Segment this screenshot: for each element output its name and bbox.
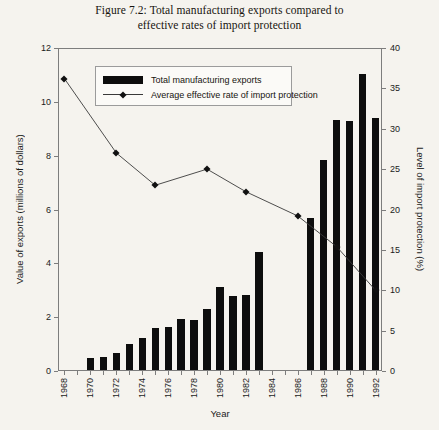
- x-tick-1968: [64, 371, 65, 375]
- y-tick-label-left-0: 0: [46, 367, 51, 376]
- x-tick-1974: [142, 371, 143, 375]
- x-tick-1984: [272, 371, 273, 375]
- legend-item-bar: Total manufacturing exports: [103, 72, 284, 87]
- x-tick-label-1982: 1982: [241, 378, 250, 398]
- y-tick-label-right-25: 25: [390, 165, 400, 174]
- y-tick-right-15: [382, 250, 386, 251]
- x-tick-label-1980: 1980: [216, 378, 225, 398]
- x-tick-1982: [246, 371, 247, 375]
- figure-title: Figure 7.2: Total manufacturing exports …: [0, 3, 439, 33]
- x-tick-1969: [77, 371, 78, 375]
- x-tick-1985: [285, 371, 286, 375]
- y-tick-right-10: [382, 290, 386, 291]
- y-tick-label-right-20: 20: [390, 205, 400, 214]
- x-tick-label-1970: 1970: [86, 378, 95, 398]
- y-tick-right-5: [382, 331, 386, 332]
- y-tick-label-right-15: 15: [390, 245, 400, 254]
- legend-item-line: Average effective rate of import protect…: [103, 87, 284, 102]
- x-tick-1973: [129, 371, 130, 375]
- y-tick-label-right-10: 10: [390, 286, 400, 295]
- x-tick-label-1992: 1992: [371, 378, 380, 398]
- x-tick-1970: [90, 371, 91, 375]
- figure-container: Figure 7.2: Total manufacturing exports …: [0, 0, 439, 430]
- x-tick-1981: [233, 371, 234, 375]
- y-tick-right-30: [382, 129, 386, 130]
- figure-title-line-1: Figure 7.2: Total manufacturing exports …: [0, 3, 439, 18]
- x-tick-1976: [168, 371, 169, 375]
- y-axis-right-title: Level of import protection (%): [413, 48, 427, 371]
- x-tick-1989: [337, 371, 338, 375]
- x-tick-1978: [194, 371, 195, 375]
- legend-line-swatch-icon: [103, 91, 143, 99]
- x-tick-1992: [376, 371, 377, 375]
- legend-line-label: Average effective rate of import protect…: [151, 90, 318, 100]
- y-tick-right-0: [382, 371, 386, 372]
- x-tick-label-1968: 1968: [60, 378, 69, 398]
- x-tick-1971: [103, 371, 104, 375]
- x-tick-1988: [324, 371, 325, 375]
- y-tick-label-right-35: 35: [390, 84, 400, 93]
- y-tick-label-left-6: 6: [46, 205, 51, 214]
- x-tick-label-1974: 1974: [138, 378, 147, 398]
- legend: Total manufacturing exports Average effe…: [95, 66, 292, 106]
- x-tick-1983: [259, 371, 260, 375]
- x-tick-1991: [363, 371, 364, 375]
- y-tick-right-35: [382, 88, 386, 89]
- x-tick-1979: [207, 371, 208, 375]
- y-tick-label-left-12: 12: [41, 44, 51, 53]
- x-tick-1980: [220, 371, 221, 375]
- y-tick-right-40: [382, 48, 386, 49]
- y-axis-left-title: Value of exports (millions of dollars): [12, 48, 26, 371]
- y-tick-label-left-8: 8: [46, 151, 51, 160]
- legend-bar-swatch-icon: [103, 76, 143, 84]
- x-tick-label-1972: 1972: [112, 378, 121, 398]
- x-tick-1972: [116, 371, 117, 375]
- y-tick-label-left-10: 10: [41, 97, 51, 106]
- x-tick-label-1988: 1988: [319, 378, 328, 398]
- legend-bar-label: Total manufacturing exports: [151, 75, 262, 85]
- x-tick-label-1976: 1976: [164, 378, 173, 398]
- x-tick-label-1978: 1978: [190, 378, 199, 398]
- x-axis-title: Year: [58, 408, 382, 419]
- y-tick-right-20: [382, 210, 386, 211]
- x-tick-1975: [155, 371, 156, 375]
- y-tick-label-left-4: 4: [46, 259, 51, 268]
- y-tick-label-left-2: 2: [46, 313, 51, 322]
- y-tick-left-0: [54, 371, 58, 372]
- x-tick-1977: [181, 371, 182, 375]
- y-tick-right-25: [382, 169, 386, 170]
- x-tick-1986: [298, 371, 299, 375]
- import-protection-line: [64, 79, 375, 291]
- x-tick-label-1986: 1986: [293, 378, 302, 398]
- x-tick-label-1990: 1990: [345, 378, 354, 398]
- x-tick-1987: [311, 371, 312, 375]
- y-tick-label-right-30: 30: [390, 124, 400, 133]
- y-tick-label-right-5: 5: [390, 326, 395, 335]
- y-tick-label-right-0: 0: [390, 367, 395, 376]
- y-tick-label-right-40: 40: [390, 44, 400, 53]
- x-tick-1990: [350, 371, 351, 375]
- figure-title-line-2: effective rates of import protection: [0, 18, 439, 33]
- x-tick-label-1984: 1984: [267, 378, 276, 398]
